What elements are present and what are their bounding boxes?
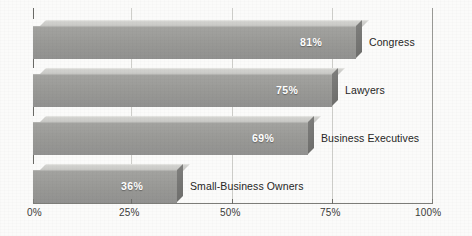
bar-side-face bbox=[308, 116, 314, 154]
bar-value-label: 36% bbox=[121, 170, 143, 202]
x-tick-75 bbox=[332, 199, 333, 204]
bar-category-label: Lawyers bbox=[345, 74, 385, 106]
bar-value-label: 69% bbox=[252, 122, 274, 154]
x-tick-label-75: 75% bbox=[320, 207, 341, 218]
x-tick-50 bbox=[232, 199, 233, 204]
bar-value-label: 75% bbox=[276, 74, 298, 106]
x-tick-label-0: 0% bbox=[27, 207, 42, 218]
baseline-stub-0 bbox=[33, 8, 34, 19]
x-tick-25 bbox=[131, 199, 132, 204]
bar-category-label: Congress bbox=[369, 26, 415, 58]
bar-side-face bbox=[332, 68, 338, 106]
x-tick-label-100: 100% bbox=[415, 207, 441, 218]
x-axis-left-cap bbox=[33, 199, 34, 204]
x-axis-line bbox=[33, 203, 433, 204]
x-tick-label-25: 25% bbox=[119, 207, 140, 218]
bar-category-label: Business Executives bbox=[321, 122, 419, 154]
bar-side-face bbox=[177, 164, 183, 202]
bar-category-label: Small-Business Owners bbox=[190, 170, 304, 202]
bar-front-face bbox=[33, 170, 177, 203]
bar-value-label: 81% bbox=[300, 26, 322, 58]
bar-side-face bbox=[356, 20, 362, 58]
gridline-100 bbox=[432, 8, 433, 203]
bar-chart: 81% Congress 75% Lawyers 69% Business Ex… bbox=[0, 0, 472, 236]
x-tick-label-50: 50% bbox=[220, 207, 241, 218]
x-axis-right-cap bbox=[432, 199, 433, 204]
